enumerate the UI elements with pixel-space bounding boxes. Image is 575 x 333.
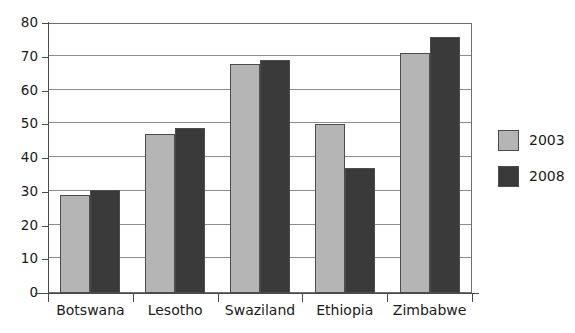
legend: 20032008: [498, 122, 570, 194]
legend-item: 2003: [498, 122, 570, 158]
y-tick-label: 50: [8, 117, 38, 131]
x-tick-mark: [472, 294, 473, 302]
x-tick-mark: [302, 294, 303, 302]
y-tick-label: 20: [8, 219, 38, 233]
x-axis-category-label: Ethiopia: [302, 303, 387, 318]
x-axis-category-label: Lesotho: [133, 303, 218, 318]
y-tick-label: 30: [8, 185, 38, 199]
x-axis-line: [35, 293, 479, 294]
bar-chart: 01020304050607080 BotswanaLesothoSwazila…: [0, 0, 575, 333]
y-tick-label: 40: [8, 151, 38, 165]
y-tick-label: 60: [8, 84, 38, 98]
x-tick-mark: [48, 294, 49, 302]
bar: [145, 134, 175, 293]
x-axis-category-label: Swaziland: [218, 303, 303, 318]
y-tick-label: 70: [8, 50, 38, 64]
bar: [60, 195, 90, 293]
bars-group: [48, 23, 472, 293]
y-tick-label: 80: [8, 16, 38, 30]
bar: [430, 37, 460, 294]
legend-swatch-icon: [498, 166, 519, 187]
x-axis-category-label: Botswana: [48, 303, 133, 318]
legend-label: 2008: [529, 168, 565, 184]
x-tick-mark: [218, 294, 219, 302]
bar: [175, 128, 205, 293]
bar: [345, 168, 375, 293]
bar: [90, 190, 120, 293]
y-axis-line: [48, 22, 49, 294]
legend-swatch-icon: [498, 130, 519, 151]
x-tick-mark: [387, 294, 388, 302]
y-tick-label: 0: [8, 286, 38, 300]
legend-item: 2008: [498, 158, 570, 194]
bar: [260, 60, 290, 293]
legend-label: 2003: [529, 132, 565, 148]
x-tick-mark: [133, 294, 134, 302]
bar: [230, 64, 260, 294]
y-tick-label: 10: [8, 252, 38, 266]
bar: [315, 124, 345, 293]
bar: [400, 53, 430, 293]
x-axis-category-label: Zimbabwe: [387, 303, 472, 318]
